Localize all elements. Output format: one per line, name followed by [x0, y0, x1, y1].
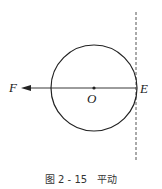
label-f: F — [8, 80, 18, 95]
diagram: F O E 图 2 - 15 平动 — [0, 0, 162, 189]
label-e: E — [139, 81, 148, 96]
arrow-head-icon — [21, 85, 31, 91]
label-o: O — [87, 91, 97, 106]
center-point — [92, 86, 95, 89]
figure-caption: 图 2 - 15 平动 — [45, 174, 117, 185]
